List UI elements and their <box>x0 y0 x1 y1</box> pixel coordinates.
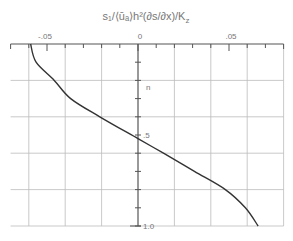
chart-title: s₁/⟨ūₐ⟩h²(∂s/∂x)/Kz <box>103 10 190 25</box>
y-tick-label: 1.0 <box>143 222 155 231</box>
chart: -.050.05.51.0ns₁/⟨ūₐ⟩h²(∂s/∂x)/Kz <box>0 0 293 241</box>
x-tick-label: .05 <box>225 32 237 41</box>
x-tick-label: 0 <box>138 32 143 41</box>
chart-title-subscript: z <box>185 16 189 25</box>
y-axis-label: n <box>146 83 150 92</box>
y-tick-label: .5 <box>143 131 150 140</box>
x-tick-label: -.05 <box>38 32 52 41</box>
